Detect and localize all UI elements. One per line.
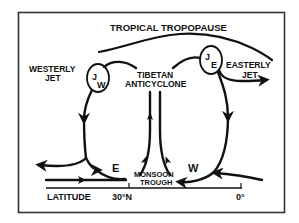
easterly-jet-label-2: JET xyxy=(242,70,258,80)
east-cell-top-arc xyxy=(173,57,200,68)
tick-label-30N: 30°N xyxy=(112,192,132,202)
cell-west-marker: W xyxy=(188,162,199,174)
west-cell-surface-east-flow xyxy=(86,158,98,170)
west-cell-surface-west-outflow xyxy=(40,158,86,166)
jet-east-E: E xyxy=(211,60,217,70)
jet-west-W: W xyxy=(97,80,106,90)
tropopause-curve xyxy=(99,34,272,60)
latitude-axis-label: LATITUDE xyxy=(47,192,91,202)
west-cell-descending-lower xyxy=(84,118,86,158)
monsoon-circulation-diagram: TROPICAL TROPOPAUSE WESTERLY JET J W EAS… xyxy=(0,0,299,223)
jet-east-J: J xyxy=(205,52,210,62)
rising-branch-right xyxy=(160,92,170,175)
cell-east-marker: E xyxy=(112,162,119,174)
easterly-jet-label: EASTERLY xyxy=(226,60,271,70)
monsoon-trough-label-2: TROUGH xyxy=(140,178,173,187)
west-cell-surface-to-trough xyxy=(96,170,125,179)
west-cell-descending-branch xyxy=(84,90,92,120)
surface-easterly-flow xyxy=(216,173,262,180)
westerly-jet-label-2: JET xyxy=(45,73,61,83)
west-cell-top-arc xyxy=(104,62,136,68)
tick-label-0: 0° xyxy=(236,192,245,202)
tibetan-anticyclone-label-2: ANTICYCLONE xyxy=(125,79,187,89)
tropopause-title: TROPICAL TROPOPAUSE xyxy=(110,22,227,33)
east-cell-descending-lower xyxy=(214,116,228,172)
